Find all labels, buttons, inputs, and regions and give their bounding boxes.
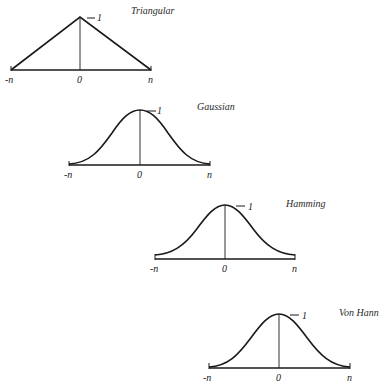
left-label: -n [203,372,211,383]
center-label: 0 [77,74,82,85]
right-label: n [207,169,212,180]
panel-triangular: 1 Triangular -n 0 n [5,5,174,85]
panel-title: Gaussian [197,101,235,112]
panel-title: Triangular [131,5,174,16]
right-label: n [148,74,153,85]
peak-label: 1 [302,310,307,321]
window-functions-diagram: 1 Triangular -n 0 n 1 Gaussian -n 0 n 1 … [0,0,379,392]
panel-title: Hamming [285,198,325,209]
center-label: 0 [137,169,142,180]
panel-von-hann: 1 Von Hann -n 0 n [203,307,379,383]
triangular-curve [11,17,151,70]
left-label: -n [64,169,72,180]
panel-gaussian: 1 Gaussian -n 0 n [64,101,235,180]
right-label: n [292,263,297,274]
von-hann-curve [209,314,350,367]
left-label: -n [5,74,13,85]
peak-label: 1 [157,105,162,116]
center-label: 0 [222,263,227,274]
gaussian-curve [69,110,210,164]
panel-title: Von Hann [339,307,379,318]
panel-hamming: 1 Hamming -n 0 n [150,198,325,274]
peak-label: 1 [97,12,102,23]
peak-label: 1 [248,201,253,212]
left-label: -n [150,263,158,274]
right-label: n [347,372,352,383]
center-label: 0 [276,372,281,383]
